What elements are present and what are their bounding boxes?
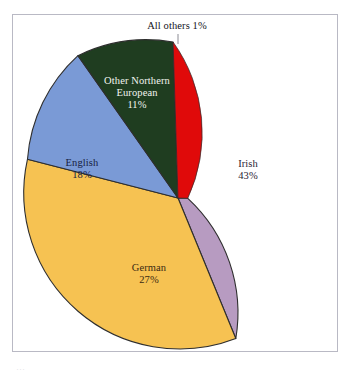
pie-label-german-name: German: [102, 262, 196, 274]
pie-chart-svg: [0, 0, 352, 372]
pie-label-irish-value: 43%: [205, 170, 291, 182]
pie-label-german: German 27%: [102, 262, 196, 286]
pie-label-all-others-name: All others: [147, 20, 192, 31]
pie-label-english: English 18%: [38, 157, 126, 181]
cut-off-caption-text: …: [16, 362, 336, 371]
pie-label-other-northern-european: Other Northern European 11%: [84, 75, 190, 110]
pie-label-german-value: 27%: [102, 274, 196, 286]
pie-label-irish-name: Irish: [205, 158, 291, 170]
pie-label-english-name: English: [38, 157, 126, 169]
pie-label-irish: Irish 43%: [205, 158, 291, 182]
pie-label-all-others: All others 1%: [113, 20, 241, 32]
pie-label-other-northern-european-value: 11%: [84, 99, 190, 111]
pie-label-all-others-value: 1%: [193, 20, 207, 31]
pie-label-english-value: 18%: [38, 169, 126, 181]
pie-slice-all-others: [173, 42, 202, 198]
pie-label-other-northern-european-name-line1: Other Northern: [84, 75, 190, 87]
pie-label-other-northern-european-name-line2: European: [84, 87, 190, 99]
pie-chart-figure: Irish 43% German 27% English 18% Other N…: [0, 0, 352, 372]
